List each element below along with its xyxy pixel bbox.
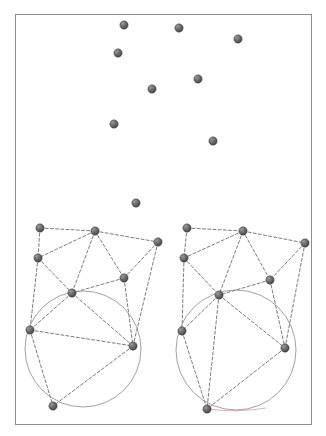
graph-node xyxy=(239,227,247,235)
graph-node xyxy=(68,289,76,297)
scatter-point xyxy=(110,120,118,128)
graph-node xyxy=(91,227,99,235)
graph-node xyxy=(178,327,186,335)
figure-root xyxy=(0,0,326,436)
graph-node xyxy=(34,254,42,262)
graph-node xyxy=(215,291,223,299)
panel-border xyxy=(16,15,312,425)
graph-node xyxy=(154,238,162,246)
graph-node xyxy=(301,239,309,247)
scatter-point xyxy=(194,75,202,83)
scatter-point xyxy=(175,24,183,32)
graph-node xyxy=(26,326,34,334)
scatter-point xyxy=(132,199,140,207)
scatter-point xyxy=(114,49,122,57)
scatter-point xyxy=(234,35,242,43)
figure-canvas xyxy=(0,0,326,436)
graph-node xyxy=(266,276,274,284)
graph-node xyxy=(129,342,137,350)
scatter-point xyxy=(148,85,156,93)
graph-node xyxy=(203,405,211,413)
graph-node xyxy=(180,254,188,262)
graph-node xyxy=(183,224,191,232)
scatter-point xyxy=(120,21,128,29)
graph-node xyxy=(36,224,44,232)
graph-node xyxy=(120,274,128,282)
scatter-point xyxy=(209,137,217,145)
graph-node xyxy=(281,344,289,352)
graph-node xyxy=(49,402,57,410)
